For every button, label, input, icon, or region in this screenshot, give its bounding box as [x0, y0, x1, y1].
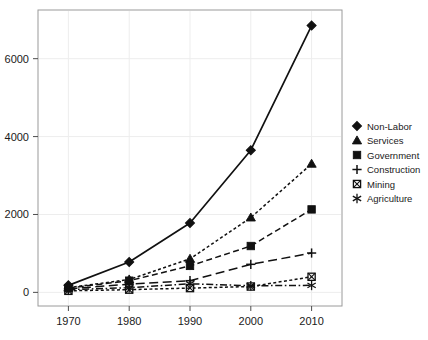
y-tick-label: 4000 — [5, 131, 29, 143]
legend-label-non-labor: Non-Labor — [367, 121, 412, 132]
marker-filled-square — [308, 206, 315, 213]
data-point-government — [186, 262, 193, 269]
x-tick-label: 2010 — [299, 315, 323, 327]
marker-filled-square — [186, 262, 193, 269]
marker-filled-square — [353, 151, 360, 158]
data-point-government — [247, 242, 254, 249]
legend-label-construction: Construction — [367, 164, 420, 175]
legend-label-mining: Mining — [367, 179, 395, 190]
data-point-government — [308, 206, 315, 213]
legend-label-agriculture: Agriculture — [367, 193, 412, 204]
x-tick-label: 2000 — [239, 315, 263, 327]
x-tick-label: 1970 — [56, 315, 80, 327]
line-chart: 0200040006000 19701980199020002010 Non-L… — [0, 0, 428, 340]
legend-label-services: Services — [367, 135, 404, 146]
y-tick-label: 0 — [23, 286, 29, 298]
y-tick-label: 2000 — [5, 208, 29, 220]
y-tick-label: 6000 — [5, 53, 29, 65]
x-tick-label: 1990 — [178, 315, 202, 327]
chart-figure: 0200040006000 19701980199020002010 Non-L… — [0, 0, 428, 340]
x-tick-label: 1980 — [117, 315, 141, 327]
marker-filled-square — [247, 242, 254, 249]
data-point-legend-government — [353, 151, 360, 158]
legend-label-government: Government — [367, 150, 420, 161]
